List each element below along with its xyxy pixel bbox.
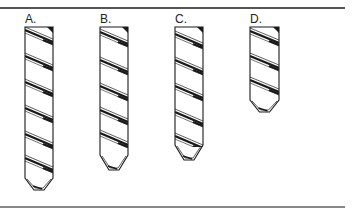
- drill-bit-diagram: A. B. C. D.: [0, 0, 358, 211]
- drill-a: [25, 27, 53, 190]
- drill-d: [250, 27, 279, 112]
- drills-canvas: [0, 0, 358, 211]
- drill-c: [175, 27, 203, 160]
- drill-b: [100, 27, 128, 170]
